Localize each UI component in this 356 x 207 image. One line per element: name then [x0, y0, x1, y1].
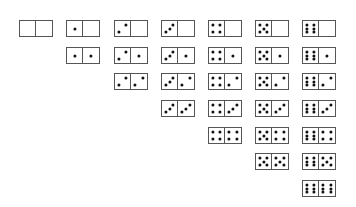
pip-icon	[313, 80, 316, 83]
pip-icon	[262, 160, 265, 163]
pip-icon	[325, 107, 328, 110]
pip-icon	[305, 187, 308, 190]
pip-icon	[278, 160, 281, 163]
pip-icon	[266, 84, 269, 87]
pip-icon	[168, 107, 171, 110]
pip-icon	[219, 76, 222, 79]
pip-icon	[235, 130, 238, 133]
pip-icon	[282, 130, 285, 133]
pip-icon	[168, 27, 171, 30]
pip-icon	[141, 76, 144, 79]
pip-icon	[73, 54, 76, 57]
pip-icon	[305, 138, 308, 141]
domino-tile-6-0	[302, 20, 336, 37]
pip-icon	[231, 107, 234, 110]
pip-icon	[313, 130, 316, 133]
pip-icon	[313, 134, 316, 137]
pip-icon	[117, 84, 120, 87]
domino-tile-6-6	[302, 180, 336, 197]
domino-half-right	[319, 21, 335, 36]
domino-board	[0, 0, 356, 207]
pip-icon	[313, 183, 316, 186]
domino-half-left	[162, 21, 178, 36]
domino-half-left	[303, 128, 319, 143]
pip-icon	[227, 138, 230, 141]
pip-icon	[313, 107, 316, 110]
pip-icon	[188, 76, 191, 79]
pip-icon	[219, 138, 222, 141]
pip-icon	[235, 103, 238, 106]
pip-icon	[305, 107, 308, 110]
pip-icon	[305, 27, 308, 30]
pip-icon	[305, 160, 308, 163]
pip-icon	[258, 76, 261, 79]
domino-half-right	[272, 154, 288, 169]
pip-icon	[172, 103, 175, 106]
pip-icon	[321, 164, 324, 167]
pip-icon	[305, 134, 308, 137]
pip-icon	[180, 111, 183, 114]
pip-icon	[125, 76, 128, 79]
pip-icon	[313, 164, 316, 167]
domino-half-left	[209, 74, 225, 89]
domino-half-right	[319, 128, 335, 143]
domino-half-right	[225, 128, 241, 143]
pip-icon	[329, 183, 332, 186]
pip-icon	[313, 58, 316, 61]
pip-icon	[219, 84, 222, 87]
pip-icon	[219, 50, 222, 53]
pip-icon	[313, 31, 316, 34]
pip-icon	[258, 103, 261, 106]
pip-icon	[321, 111, 324, 114]
pip-icon	[164, 31, 167, 34]
domino-tile-3-1	[161, 47, 195, 64]
pip-icon	[282, 76, 285, 79]
pip-icon	[313, 156, 316, 159]
domino-tile-2-0	[114, 20, 148, 37]
pip-icon	[321, 156, 324, 159]
domino-half-left	[303, 154, 319, 169]
pip-icon	[321, 187, 324, 190]
pip-icon	[274, 164, 277, 167]
domino-half-left	[303, 101, 319, 116]
pip-icon	[211, 84, 214, 87]
pip-icon	[305, 54, 308, 57]
pip-icon	[266, 111, 269, 114]
pip-icon	[164, 111, 167, 114]
pip-icon	[231, 54, 234, 57]
pip-icon	[211, 103, 214, 106]
pip-icon	[258, 84, 261, 87]
pip-icon	[262, 54, 265, 57]
domino-half-left	[115, 48, 131, 63]
pip-icon	[168, 54, 171, 57]
pip-icon	[227, 111, 230, 114]
pip-icon	[329, 103, 332, 106]
pip-icon	[219, 130, 222, 133]
pip-icon	[211, 50, 214, 53]
pip-icon	[321, 84, 324, 87]
domino-half-left	[209, 21, 225, 36]
pip-icon	[305, 23, 308, 26]
domino-tile-0-0	[19, 20, 53, 37]
domino-half-right	[319, 181, 335, 196]
domino-tile-6-2	[302, 73, 336, 90]
domino-half-right	[225, 101, 241, 116]
pip-icon	[274, 130, 277, 133]
domino-half-right	[272, 128, 288, 143]
pip-icon	[258, 31, 261, 34]
pip-icon	[278, 107, 281, 110]
domino-tile-4-0	[208, 20, 242, 37]
pip-icon	[133, 84, 136, 87]
pip-icon	[180, 84, 183, 87]
pip-icon	[235, 76, 238, 79]
domino-tile-3-3	[161, 100, 195, 117]
pip-icon	[329, 76, 332, 79]
domino-half-left	[256, 21, 272, 36]
domino-half-left	[67, 48, 83, 63]
pip-icon	[313, 191, 316, 194]
domino-half-right	[83, 21, 99, 36]
pip-icon	[125, 50, 128, 53]
domino-half-right	[319, 48, 335, 63]
domino-tile-2-1	[114, 47, 148, 64]
pip-icon	[305, 156, 308, 159]
